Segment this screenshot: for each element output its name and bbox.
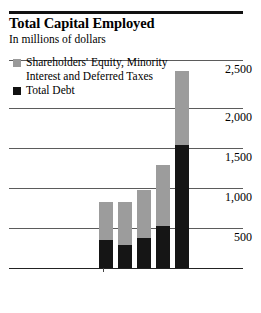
axis-baseline (9, 268, 243, 269)
bar-81-equity-segment (99, 202, 113, 240)
bar-83-equity-segment (137, 190, 151, 238)
header-rule (9, 11, 243, 14)
bar-85[interactable] (175, 71, 189, 268)
bar-84[interactable] (156, 165, 170, 268)
bar-82-debt-segment (118, 245, 132, 268)
legend-label-debt: Total Debt (26, 84, 75, 98)
chart-figure: Total Capital Employed In millions of do… (0, 0, 261, 313)
bar-85-equity-segment (175, 71, 189, 145)
chart-subtitle: In millions of dollars (9, 32, 249, 46)
bar-83-debt-segment (137, 238, 151, 268)
bar-84-equity-segment (156, 165, 170, 226)
legend-swatch-equity-icon (13, 59, 21, 67)
bar-81-debt-segment (99, 240, 113, 268)
legend-item-debt: Total Debt (13, 84, 173, 98)
chart-title: Total Capital Employed (9, 15, 249, 32)
bar-81[interactable] (99, 202, 113, 268)
bar-84-debt-segment (156, 226, 170, 268)
chart-legend: Shareholders' Equity, Minority Interest … (13, 56, 173, 99)
bar-83[interactable] (137, 190, 151, 268)
legend-item-equity: Shareholders' Equity, Minority Interest … (13, 56, 173, 83)
bar-82[interactable] (118, 202, 132, 268)
bar-85-debt-segment (175, 145, 189, 268)
legend-label-equity: Shareholders' Equity, Minority Interest … (26, 56, 173, 83)
bar-82-equity-segment (118, 202, 132, 245)
legend-swatch-debt-icon (13, 87, 21, 95)
